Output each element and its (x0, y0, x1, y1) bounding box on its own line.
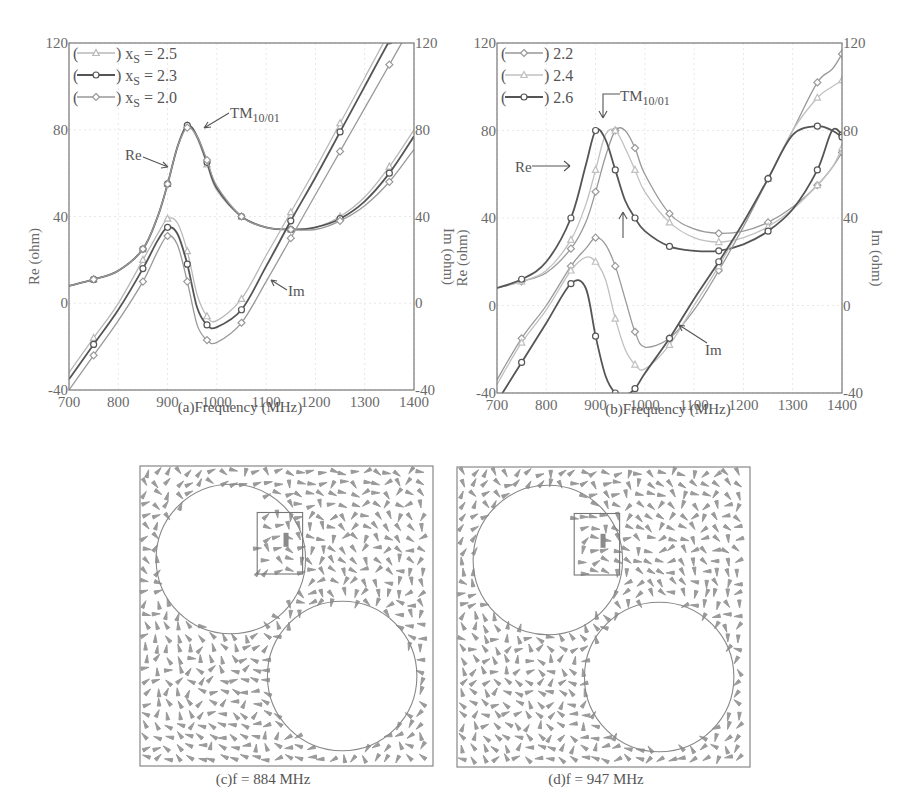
triangle-marker (612, 315, 618, 321)
field-plot-d (457, 467, 750, 767)
y-left-tick-label: 120 (474, 35, 497, 51)
diamond-marker (93, 94, 100, 101)
y-right-tick-label: 80 (415, 122, 430, 138)
circle-marker (93, 72, 99, 78)
series-line (69, 125, 414, 286)
y-left-axis-title: Re (ohm) (454, 229, 471, 286)
y-right-tick-label: 120 (415, 35, 438, 51)
x-tick-label: 900 (156, 394, 179, 410)
circle-marker (184, 261, 190, 267)
circle-marker (593, 333, 599, 339)
circle-marker (765, 176, 771, 182)
y-right-tick-label: -40 (843, 385, 863, 401)
diamond-marker (386, 61, 393, 68)
diamond-marker (612, 263, 619, 270)
circle-marker (165, 224, 171, 230)
legend-paren-open: ( (501, 67, 506, 85)
circle-marker (204, 322, 210, 328)
svg-text:Im: Im (288, 283, 305, 299)
field-frame (457, 467, 750, 767)
diamond-marker (632, 145, 639, 152)
series-line (497, 126, 842, 402)
plot-b-impedance-vs-frequency: 70080090010001100120013001400-4004080120… (454, 35, 885, 413)
x-tick-label: 1300 (778, 397, 808, 413)
circle-marker (814, 167, 820, 173)
y-right-tick-label: 40 (843, 210, 858, 226)
annotation-im: Im (271, 280, 305, 299)
legend-label: ) 2.4 (544, 67, 573, 85)
y-right-tick-label: 40 (415, 209, 430, 225)
triangle-marker (93, 50, 99, 56)
svg-text:TM10/01: TM10/01 (620, 88, 670, 108)
figure: 70080090010001100120013001400-4004080120… (0, 0, 902, 812)
circle-marker (612, 167, 618, 173)
legend: () 2.2() 2.4() 2.6 (501, 45, 573, 107)
feed-probe (284, 533, 289, 547)
annotation-im: Im (679, 325, 722, 358)
x-tick-label: 800 (535, 397, 558, 413)
triangle-marker (592, 166, 598, 172)
circle-marker (593, 128, 599, 134)
y-left-axis-title: Re (ohm) (26, 228, 43, 285)
arrow-icon (271, 280, 287, 290)
y-left-tick-label: 120 (46, 35, 69, 51)
circle-marker (386, 170, 392, 176)
caption-d: (d)f = 947 MHz (548, 771, 644, 788)
annotation-arrow-up (619, 212, 627, 238)
series-line (69, 125, 414, 286)
diamond-marker (632, 328, 639, 335)
y-right-tick-label: 120 (843, 35, 866, 51)
diamond-marker (287, 235, 294, 242)
y-left-tick-label: -40 (48, 382, 68, 398)
circle-marker (667, 243, 673, 249)
legend-item: () xS = 2.3 (73, 67, 177, 88)
feed-probe (601, 534, 606, 548)
svg-text:Re: Re (125, 147, 142, 163)
legend-label: ) 2.2 (544, 45, 573, 63)
svg-text:Im: Im (705, 342, 722, 358)
svg-text:Re: Re (515, 159, 532, 175)
y-right-axis-title: Im (ohm) (868, 229, 885, 286)
x-tick-label: 1200 (300, 394, 330, 410)
x-tick-label: 900 (584, 397, 607, 413)
arrow-icon (679, 325, 707, 343)
arrow-icon (619, 212, 627, 238)
circle-marker (519, 359, 525, 365)
triangle-marker (337, 120, 343, 126)
circle-marker (568, 281, 574, 287)
y-left-tick-label: 40 (53, 209, 68, 225)
y-left-tick-label: 40 (481, 210, 496, 226)
circle-marker (288, 218, 294, 224)
circle-marker (140, 266, 146, 272)
y-right-tick-label: 0 (843, 298, 851, 314)
series-line (69, 127, 414, 286)
legend-label: ) 2.6 (544, 89, 573, 107)
triangle-marker (568, 236, 574, 242)
circle-marker (667, 335, 673, 341)
triangle-marker (521, 72, 527, 78)
circle-marker (716, 259, 722, 265)
diamond-marker (139, 278, 146, 285)
x-tick-label: 1300 (350, 394, 380, 410)
y-right-tick-label: -40 (415, 382, 435, 398)
plot-a-impedance-vs-frequency: 70080090010001100120013001400-4004080120… (26, 0, 457, 410)
legend-item: () 2.6 (501, 89, 573, 107)
y-right-tick-label: 0 (415, 295, 423, 311)
y-left-tick-label: 80 (481, 123, 496, 139)
arrow-icon (143, 157, 168, 168)
circle-marker (239, 307, 245, 313)
field-plot-c (140, 466, 433, 766)
caption-a: (a)Frequency (MHz) (178, 399, 303, 416)
caption-c: (c)f = 884 MHz (216, 771, 311, 788)
y-right-tick-label: 80 (843, 123, 858, 139)
annotation-re: Re (125, 147, 168, 168)
triangle-marker (632, 166, 638, 172)
diamond-marker (592, 188, 599, 195)
diamond-marker (184, 278, 191, 285)
y-left-tick-label: 0 (489, 298, 497, 314)
diamond-marker (337, 148, 344, 155)
triangle-marker (386, 29, 392, 35)
circle-marker (91, 341, 97, 347)
caption-b: (b)Frequency (MHz) (605, 401, 730, 418)
diamond-marker (715, 230, 722, 237)
